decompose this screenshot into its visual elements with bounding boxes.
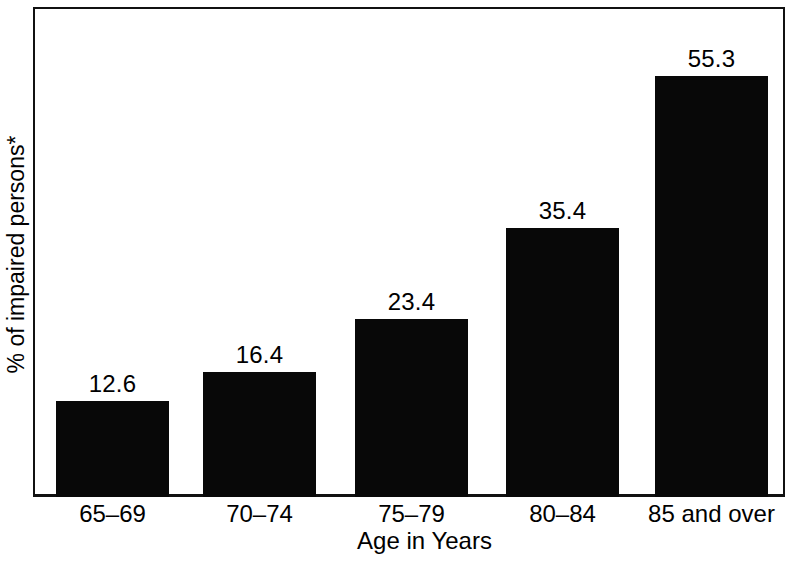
x-tick-label-65-69: 65–69 xyxy=(46,501,179,527)
y-axis-title-label: % of impaired persons* xyxy=(5,136,30,374)
x-tick-label-75-79: 75–79 xyxy=(345,501,478,527)
x-axis-title: Age in Years xyxy=(0,527,797,555)
plot-frame xyxy=(33,7,785,497)
y-axis-title: % of impaired persons* xyxy=(0,0,34,497)
x-tick-label-85-and-over: 85 and over xyxy=(641,501,782,527)
x-tick-label-80-84: 80–84 xyxy=(496,501,629,527)
x-axis-title-label: Age in Years xyxy=(357,527,492,555)
x-tick-label-70-74: 70–74 xyxy=(193,501,326,527)
bar-chart-figure: % of impaired persons* 12.6 65–69 16.4 7… xyxy=(0,0,797,561)
